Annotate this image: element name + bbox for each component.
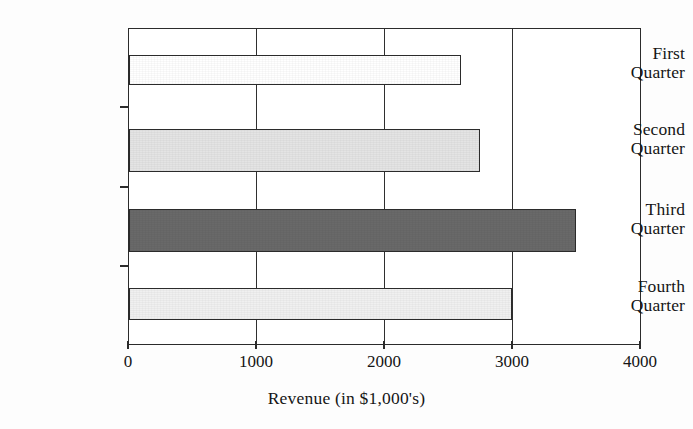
bar-texture xyxy=(130,210,575,251)
category-label-fourth-quarter: Fourth Quarter xyxy=(573,277,693,315)
bar-third-quarter xyxy=(129,209,576,252)
category-label-line1: Fourth xyxy=(573,277,685,296)
x-tick-4000 xyxy=(639,341,641,349)
category-label-line2: Quarter xyxy=(573,219,685,238)
bar-texture xyxy=(130,289,511,319)
x-tick-label-2000: 2000 xyxy=(367,352,401,372)
category-tick-1 xyxy=(120,106,129,108)
x-axis-title: Revenue (in $1,000's) xyxy=(0,388,693,409)
x-tick-label-4000: 4000 xyxy=(623,352,657,372)
bar-fourth-quarter xyxy=(129,288,512,320)
category-label-line2: Quarter xyxy=(573,296,685,315)
category-tick-2 xyxy=(120,186,129,188)
bar-chart: First Quarter Second Quarter Third Quart… xyxy=(0,0,693,429)
x-tick-0 xyxy=(127,341,129,349)
category-tick-3 xyxy=(120,265,129,267)
x-tick-label-1000: 1000 xyxy=(239,352,273,372)
category-label-line1: First xyxy=(573,44,685,63)
x-tick-1000 xyxy=(255,341,257,349)
bar-first-quarter xyxy=(129,55,461,85)
bar-second-quarter xyxy=(129,129,480,172)
category-label-line1: Third xyxy=(573,200,685,219)
x-tick-3000 xyxy=(511,341,513,349)
category-label-line2: Quarter xyxy=(573,139,685,158)
x-tick-label-0: 0 xyxy=(124,352,133,372)
bar-texture xyxy=(130,56,460,84)
category-label-line1: Second xyxy=(573,120,685,139)
bar-texture xyxy=(130,130,479,171)
category-label-line2: Quarter xyxy=(573,63,685,82)
plot-area xyxy=(128,28,641,345)
x-tick-2000 xyxy=(383,341,385,349)
category-label-third-quarter: Third Quarter xyxy=(573,200,693,238)
category-label-first-quarter: First Quarter xyxy=(573,44,693,82)
category-label-second-quarter: Second Quarter xyxy=(573,120,693,158)
x-tick-label-3000: 3000 xyxy=(495,352,529,372)
